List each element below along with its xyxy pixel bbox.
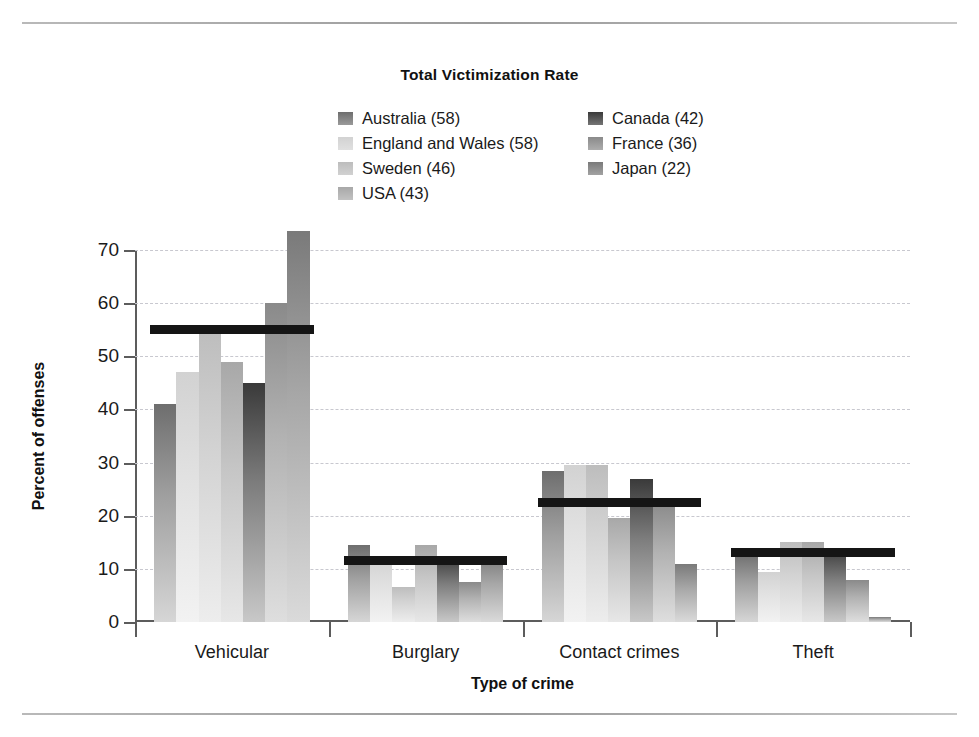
bar <box>653 502 675 622</box>
bar <box>176 372 198 622</box>
legend-label: USA (43) <box>362 185 429 202</box>
y-axis-tick-label: 50 <box>98 345 119 367</box>
gridline <box>135 250 910 251</box>
bar <box>758 572 780 622</box>
bar <box>154 404 176 622</box>
gridline <box>135 303 910 304</box>
legend-swatch-icon <box>588 162 603 175</box>
x-axis-title: Type of crime <box>135 675 910 693</box>
total-victimization-rate-line <box>344 556 507 565</box>
bar <box>437 556 459 622</box>
legend-label: Canada (42) <box>612 110 704 127</box>
bar <box>675 564 697 622</box>
x-axis-tick <box>523 622 525 637</box>
bar <box>542 471 564 622</box>
bar <box>735 553 757 622</box>
legend-item[interactable]: Canada (42) <box>588 107 778 130</box>
y-axis-tick <box>124 622 135 624</box>
y-axis-tick <box>124 303 135 305</box>
y-axis-tick <box>124 356 135 358</box>
bar <box>287 231 309 622</box>
y-axis-tick <box>124 516 135 518</box>
legend-swatch-icon <box>588 137 603 150</box>
total-victimization-rate-line <box>150 325 313 334</box>
x-axis-tick <box>716 622 718 637</box>
x-axis-category-label: Burglary <box>392 642 459 663</box>
legend-label: France (36) <box>612 135 697 152</box>
bar <box>221 362 243 622</box>
legend-swatch-icon <box>338 137 353 150</box>
bar <box>564 465 586 622</box>
bar <box>824 548 846 622</box>
legend-swatch-icon <box>338 162 353 175</box>
y-axis-tick-label: 30 <box>98 452 119 474</box>
x-axis-category-label: Vehicular <box>195 642 269 663</box>
bar <box>265 303 287 622</box>
legend-label: Sweden (46) <box>362 160 456 177</box>
y-axis-tick <box>124 569 135 571</box>
legend-swatch-icon <box>588 112 603 125</box>
legend-item[interactable]: USA (43) <box>338 182 588 205</box>
legend-item[interactable]: Australia (58) <box>338 107 588 130</box>
bar <box>608 518 630 622</box>
bar <box>243 383 265 622</box>
bar <box>370 558 392 622</box>
chart-legend: Australia (58)Canada (42)England and Wal… <box>338 107 778 205</box>
y-axis-tick-label: 70 <box>98 239 119 261</box>
x-axis-category-label: Contact crimes <box>559 642 679 663</box>
y-axis-tick-label: 0 <box>108 611 119 633</box>
y-axis-tick <box>124 250 135 252</box>
bar <box>869 617 891 622</box>
legend-swatch-icon <box>338 112 353 125</box>
total-victimization-rate-line <box>538 498 701 507</box>
bar <box>392 587 414 622</box>
bottom-divider-rule <box>22 713 957 715</box>
y-axis-tick-label: 10 <box>98 558 119 580</box>
y-axis-line <box>135 250 137 622</box>
x-axis-tick <box>329 622 331 637</box>
y-axis-tick-label: 60 <box>98 292 119 314</box>
legend-swatch-icon <box>338 187 353 200</box>
legend-item[interactable]: England and Wales (58) <box>338 132 588 155</box>
legend-item[interactable]: Sweden (46) <box>338 157 588 180</box>
legend-label: Japan (22) <box>612 160 691 177</box>
x-axis-tick <box>135 622 137 637</box>
y-axis-title: Percent of offenses <box>30 362 48 510</box>
legend-item[interactable]: Japan (22) <box>588 157 778 180</box>
legend-label: England and Wales (58) <box>362 135 538 152</box>
gridline <box>135 356 910 357</box>
bar <box>481 556 503 622</box>
y-axis-tick <box>124 463 135 465</box>
legend-label: Australia (58) <box>362 110 460 127</box>
bar <box>199 330 221 622</box>
y-axis-tick <box>124 409 135 411</box>
top-divider-rule <box>22 22 957 24</box>
bar <box>459 582 481 622</box>
legend-item[interactable]: France (36) <box>588 132 778 155</box>
x-axis-category-label: Theft <box>793 642 834 663</box>
bar <box>586 465 608 622</box>
x-axis-tick <box>910 622 912 637</box>
total-victimization-rate-line <box>731 548 894 557</box>
bar <box>846 580 868 623</box>
y-axis-tick-label: 40 <box>98 398 119 420</box>
chart-title: Total Victimization Rate <box>0 66 979 84</box>
plot-area: 010203040506070 VehicularBurglaryContact… <box>135 250 910 622</box>
y-axis-tick-label: 20 <box>98 505 119 527</box>
